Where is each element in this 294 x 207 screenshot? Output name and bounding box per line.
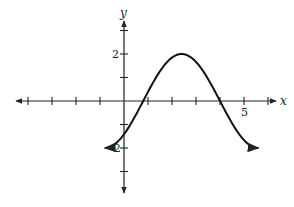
y-tick-label-2: 2	[112, 48, 119, 61]
x-tick-label-5: 5	[241, 106, 248, 119]
y-axis-label: y	[119, 6, 127, 20]
y-tick-label-neg2: -2	[110, 142, 121, 155]
x-axis-label: x	[280, 94, 287, 108]
chart-canvas: x y 5 2 -2	[0, 0, 294, 207]
